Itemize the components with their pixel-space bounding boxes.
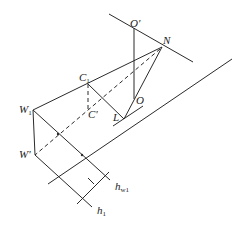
label-w1: W1 bbox=[19, 103, 32, 117]
label-h-1: h1 bbox=[97, 204, 107, 218]
label-n: N bbox=[162, 34, 171, 46]
line-w1-extension bbox=[33, 110, 110, 180]
tick-mid bbox=[88, 178, 94, 184]
intersection-dot-2 bbox=[81, 154, 83, 156]
label-c-prime: C' bbox=[88, 108, 98, 120]
label-c1: C1 bbox=[79, 71, 90, 85]
diagram-svg: O' N C1 C' W1 W' L O hw1 h1 bbox=[0, 0, 247, 233]
line-w-prime-extension bbox=[35, 155, 92, 207]
geometry-diagram: O' N C1 C' W1 W' L O hw1 h1 bbox=[0, 0, 247, 233]
long-slope-line bbox=[48, 59, 232, 184]
top-reference-line bbox=[109, 14, 193, 62]
label-h-w1: hw1 bbox=[115, 180, 130, 194]
label-o: O bbox=[136, 94, 144, 106]
label-o-prime: O' bbox=[130, 17, 141, 29]
intersection-dot bbox=[57, 133, 59, 135]
label-w-prime: W' bbox=[19, 148, 31, 160]
line-n-l bbox=[124, 47, 162, 119]
line-w1-w-prime bbox=[33, 110, 35, 155]
label-l: L bbox=[112, 111, 119, 123]
